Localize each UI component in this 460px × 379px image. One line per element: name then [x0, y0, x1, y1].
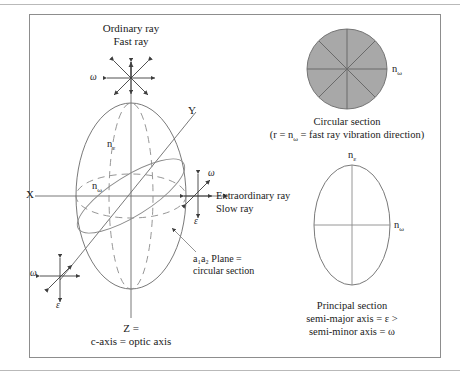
principal-top-sub: ε — [353, 155, 356, 163]
principal-section-caption-line1: Principal section — [317, 300, 387, 312]
extraordinary-ray-label-line1: Extraordinary ray — [216, 190, 290, 202]
principal-right-sub: ω — [399, 225, 404, 233]
circular-section-caption-line1: Circular section — [314, 116, 381, 128]
principal-section-caption-line3: semi-minor axis = ω — [309, 326, 395, 338]
a1a2-plane-label-line2: circular section — [193, 265, 254, 277]
n-epsilon-label: nε — [107, 138, 115, 152]
ordinary-ray-label-line2: Fast ray — [113, 35, 148, 48]
circular-caption-prefix: (r = n — [270, 129, 293, 140]
principal-section-top-label: nε — [348, 149, 356, 163]
n-omega-sub: ω — [97, 186, 102, 194]
omega-symbol-right: ω — [208, 168, 215, 179]
z-axis-label-line2: c-axis = optic axis — [91, 335, 171, 348]
y-axis-label: Y — [188, 104, 196, 117]
omega-symbol-lower-left: ω — [30, 268, 37, 279]
z-axis-label-line1: Z = — [123, 322, 139, 335]
circular-caption-rest: = fast ray vibration direction) — [298, 129, 424, 140]
circular-section-index-label: nω — [392, 63, 402, 77]
x-axis-label: X — [26, 188, 34, 201]
circular-section-caption-line2: (r = nω = fast ray vibration direction) — [270, 129, 424, 143]
extraordinary-ray-label-line2: Slow ray — [216, 203, 254, 215]
epsilon-symbol-right: ε — [194, 216, 198, 227]
omega-symbol-top: ω — [90, 72, 97, 83]
a1a2-plane-label-line1: a₁a₂ Plane = — [193, 253, 242, 265]
circular-index-sub: ω — [397, 69, 402, 77]
ordinary-ray-label-line1: Ordinary ray — [103, 22, 160, 35]
figure-canvas: Ordinary ray Fast ray Extraordinary ray … — [0, 0, 460, 379]
n-omega-label: nω — [92, 180, 102, 194]
principal-section-right-label: nω — [394, 219, 404, 233]
n-epsilon-sub: ε — [112, 144, 115, 152]
principal-section-caption-line2: semi-major axis = ε > — [306, 313, 398, 325]
epsilon-symbol-lower-left: ε — [56, 300, 60, 311]
